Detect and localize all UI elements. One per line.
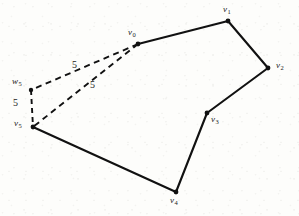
vertex-label-v4: v4 <box>170 196 178 205</box>
dashed-edge-group <box>31 44 138 127</box>
edge-v4-v5 <box>33 127 176 192</box>
vertex-label-v2: v2 <box>276 61 284 70</box>
vertex-dot-v4 <box>174 190 179 195</box>
edge-length-label-upper: 5 <box>72 60 77 70</box>
dashed-w5-v5 <box>31 90 33 127</box>
dashed-v0-v5 <box>33 44 138 127</box>
edge-v3-v4 <box>176 113 207 192</box>
vertex-label-v3: v3 <box>211 115 219 124</box>
edge-v2-v3 <box>207 68 268 113</box>
vertex-dot-v2 <box>266 66 271 71</box>
polygon-drawing <box>0 0 299 216</box>
vertex-dot-v3 <box>205 111 210 116</box>
vertex-dot-v5 <box>31 125 36 130</box>
solid-edge-group <box>33 21 268 192</box>
vertex-label-v1: v1 <box>223 5 231 14</box>
vertex-label-w5: w5 <box>12 77 22 86</box>
edge-length-label-lower: 5 <box>90 80 95 90</box>
edge-length-label-left: 5 <box>13 98 18 108</box>
vertex-label-v0: v0 <box>128 28 136 37</box>
dashed-v0-w5 <box>31 44 138 90</box>
figure-canvas: v0 v1 v2 v3 v4 v5 w5 5 5 5 <box>0 0 299 216</box>
edge-v1-v2 <box>228 21 268 68</box>
vertex-label-v5: v5 <box>14 119 22 128</box>
vertex-dot-w5 <box>29 88 33 92</box>
vertex-dot-group <box>29 19 271 195</box>
vertex-dot-v1 <box>226 19 231 24</box>
edge-v0-v1 <box>138 21 228 44</box>
vertex-dot-v0 <box>136 42 141 47</box>
